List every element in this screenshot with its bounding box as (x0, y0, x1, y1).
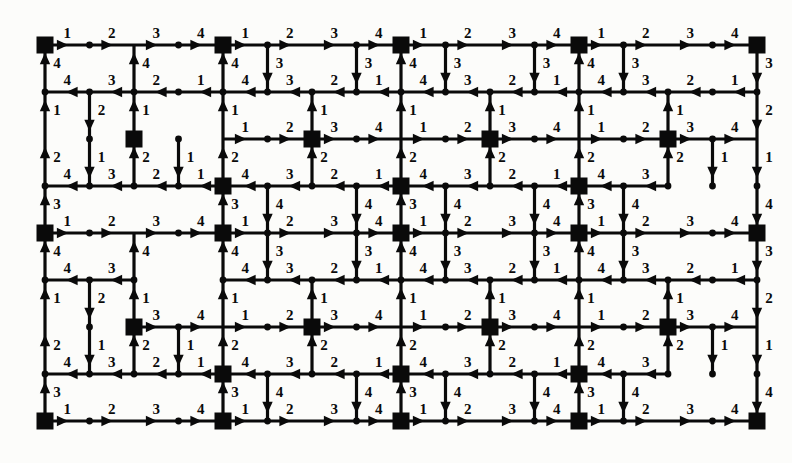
square-hub-node (126, 131, 143, 148)
edge-label: 2 (587, 337, 595, 352)
arrow-up-icon (218, 335, 228, 347)
arrow-right-icon (324, 40, 336, 50)
arrow-up-icon (663, 147, 673, 159)
arrow-down-icon (618, 402, 628, 414)
arrow-down-icon (529, 73, 539, 85)
edge-label: 3 (632, 55, 640, 70)
dot-node (353, 418, 360, 425)
arrow-right-icon (546, 416, 558, 426)
arrow-right-icon (368, 322, 380, 332)
arrow-left-icon (600, 181, 612, 191)
dot-node (398, 89, 405, 96)
arrow-left-icon (111, 87, 123, 97)
arrow-right-icon (591, 228, 603, 238)
edge-label: 4 (587, 55, 595, 70)
square-hub-node (482, 319, 499, 336)
dot-node (86, 230, 93, 237)
arrow-down-icon (84, 308, 94, 320)
arrow-left-icon (645, 87, 657, 97)
dot-node (175, 371, 182, 378)
edge-label: 4 (420, 261, 428, 276)
edge-label: 4 (231, 243, 239, 258)
edge-label: 2 (765, 290, 773, 305)
edge-label: 1 (553, 167, 561, 182)
arrow-up-icon (129, 241, 139, 253)
edge-label: 3 (153, 402, 161, 417)
arrow-down-icon (618, 214, 628, 226)
arrow-left-icon (556, 369, 568, 379)
arrow-up-icon (574, 335, 584, 347)
dot-node (754, 89, 761, 96)
edge-label: 2 (286, 214, 294, 229)
arrow-up-icon (129, 335, 139, 347)
edge-label: 4 (242, 167, 250, 182)
edge-label: 2 (331, 73, 339, 88)
edge-label: 3 (331, 214, 339, 229)
edge-label: 2 (142, 337, 150, 352)
arrow-right-icon (190, 416, 202, 426)
edge-label: 2 (642, 26, 650, 41)
arrow-left-icon (200, 87, 212, 97)
edge-label: 3 (464, 167, 472, 182)
arrow-left-icon (689, 275, 701, 285)
arrow-right-icon (502, 134, 513, 144)
edge-label: 1 (53, 290, 61, 305)
arrow-left-icon (511, 369, 523, 379)
edge-label: 3 (687, 402, 695, 417)
edge-label: 3 (331, 120, 339, 135)
edge-label: 1 (242, 402, 250, 417)
arrow-right-icon (235, 134, 247, 144)
arrow-up-icon (663, 288, 673, 300)
edge-label: 3 (464, 355, 472, 370)
arrow-down-icon (752, 167, 762, 179)
edge-label: 3 (642, 167, 650, 182)
edge-label: 4 (553, 26, 561, 41)
arrow-down-icon (173, 167, 183, 179)
square-hub-node (749, 225, 766, 242)
arrow-up-icon (396, 382, 406, 394)
arrow-down-icon (618, 261, 628, 273)
edge-label: 4 (53, 243, 61, 258)
edge-label: 2 (464, 214, 472, 229)
dot-node (709, 371, 716, 378)
dot-node (175, 89, 182, 96)
edge-label: 4 (365, 196, 373, 211)
arrow-down-icon (262, 261, 272, 273)
arrow-left-icon (200, 369, 212, 379)
edge-label: 2 (687, 73, 695, 88)
dot-node (709, 418, 716, 425)
arrow-right-icon (57, 416, 69, 426)
arrow-left-icon (645, 275, 657, 285)
arrow-right-icon (146, 228, 158, 238)
arrow-right-icon (235, 416, 247, 426)
arrow-left-icon (689, 87, 701, 97)
square-hub-node (393, 225, 410, 242)
edge-label: 2 (509, 355, 517, 370)
edge-label: 1 (231, 290, 239, 305)
edge-label: 3 (153, 308, 161, 323)
dot-node (220, 277, 227, 284)
edge-label: 3 (331, 26, 339, 41)
edge-label: 4 (365, 384, 373, 399)
arrow-left-icon (155, 87, 167, 97)
arrow-down-icon (440, 402, 450, 414)
edge-label: 1 (320, 290, 328, 305)
arrow-up-icon (218, 241, 228, 253)
edge-label: 2 (286, 120, 294, 135)
dot-node (131, 89, 138, 96)
arrow-left-icon (200, 181, 212, 191)
edge-label: 2 (153, 167, 161, 182)
square-hub-node (393, 366, 410, 383)
arrow-left-icon (645, 181, 657, 191)
edge-label: 2 (142, 149, 150, 164)
dot-node (42, 277, 49, 284)
arrow-right-icon (101, 416, 113, 426)
arrow-left-icon (511, 87, 523, 97)
edge-label: 3 (509, 26, 517, 41)
arrow-right-icon (190, 322, 202, 332)
edge-label: 3 (153, 26, 161, 41)
dot-node (754, 371, 761, 378)
arrow-left-icon (556, 87, 568, 97)
arrow-up-icon (396, 288, 406, 300)
arrow-right-icon (724, 228, 736, 238)
